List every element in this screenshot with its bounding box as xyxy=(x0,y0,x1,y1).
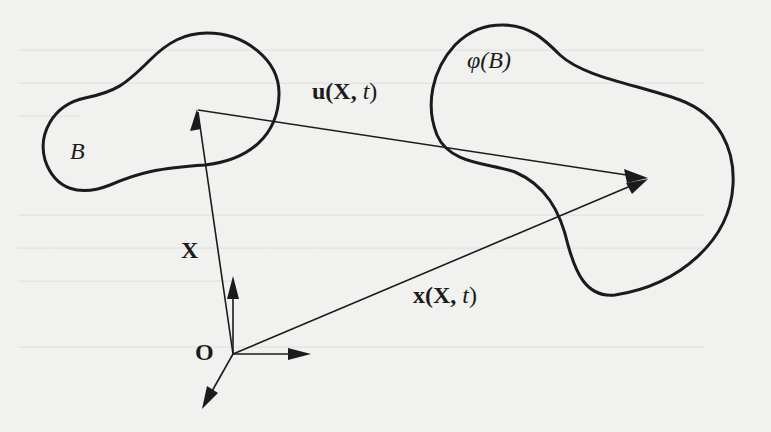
axis-right-arrowhead xyxy=(288,348,311,360)
current-position-label-x: x xyxy=(413,282,425,308)
origin-label: O xyxy=(195,339,214,365)
displacement-label-close: ) xyxy=(369,78,377,104)
current-position-label-close: ) xyxy=(469,282,477,308)
axis-up-arrowhead xyxy=(227,276,239,299)
position-vector-x xyxy=(233,182,640,354)
position-vector-X xyxy=(198,112,233,354)
phi-symbol: φ xyxy=(467,47,480,73)
reference-body-label: B xyxy=(70,138,85,164)
axis-out-arrowhead xyxy=(202,386,218,409)
reference-body-outline xyxy=(43,33,279,191)
displacement-vector-u xyxy=(198,110,640,177)
position-vector-X-label: X xyxy=(181,237,199,263)
current-body-label-arg: (B) xyxy=(480,47,511,73)
displacement-label: u(X, t) xyxy=(312,78,377,104)
displacement-label-args: (X, xyxy=(325,78,362,104)
diagram-canvas: ────────────────────────────────────────… xyxy=(0,0,771,432)
displacement-label-u: u xyxy=(312,78,325,104)
current-position-label: x(X, t) xyxy=(413,282,477,308)
current-body-label: φ(B) xyxy=(467,47,511,73)
current-position-label-args: (X, xyxy=(425,282,462,308)
deformation-diagram: B φ(B) u(X, t) X x(X, t) O xyxy=(0,0,771,432)
